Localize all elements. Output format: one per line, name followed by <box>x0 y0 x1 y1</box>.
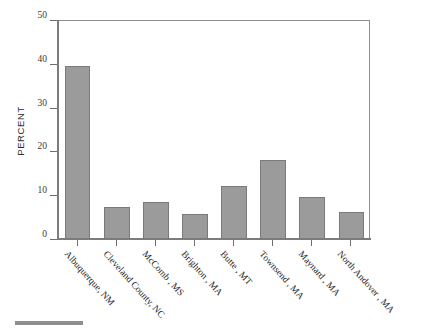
x-axis-tick <box>194 240 195 246</box>
y-axis-tick-label: 40 <box>0 55 47 65</box>
bar <box>104 207 130 239</box>
y-axis-tick-label: 50 <box>0 11 47 21</box>
bars-group <box>57 20 370 239</box>
bar <box>299 197 325 239</box>
y-axis-tick-label: 10 <box>0 186 47 196</box>
bar <box>260 160 286 239</box>
x-axis-tick <box>233 240 234 246</box>
y-axis-tick-label: 0 <box>0 230 47 240</box>
bar <box>182 214 208 239</box>
bar <box>339 212 365 239</box>
x-axis-tick <box>350 240 351 246</box>
y-axis-title: PERCENT <box>0 122 55 140</box>
y-axis-tick-label: 30 <box>0 99 47 109</box>
bar-chart-figure: PERCENT 01020304050 Albuquerque, NMCleve… <box>0 0 437 335</box>
bar <box>65 66 91 239</box>
x-axis-tick-label: North Andover , MA <box>336 249 397 315</box>
x-axis-tick <box>272 240 273 246</box>
bar <box>221 186 247 239</box>
x-axis-tick <box>155 240 156 246</box>
bottom-rule <box>15 321 83 325</box>
x-axis-tick-label: Brighton , MA <box>180 249 225 297</box>
x-axis-tick <box>77 240 78 246</box>
y-axis-tick-label: 20 <box>0 142 47 152</box>
x-axis-tick-label: Butte , MT <box>219 249 255 287</box>
bar <box>143 202 169 239</box>
x-axis-tick <box>116 240 117 246</box>
x-axis-tick <box>311 240 312 246</box>
